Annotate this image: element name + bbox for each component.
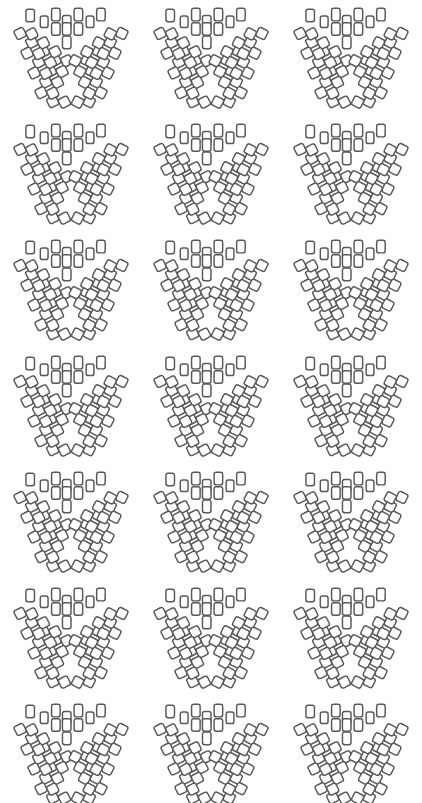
v-cluster-motif: [10, 582, 132, 692]
pattern-tile: [198, 559, 211, 572]
v-cluster-motif: [10, 466, 132, 576]
pattern-tile: [338, 211, 351, 224]
pattern-tile: [192, 124, 201, 137]
v-cluster-motif: [10, 118, 132, 228]
pattern-tile: [395, 491, 408, 504]
pattern-tile: [332, 139, 341, 152]
v-cluster-motif: [290, 118, 412, 228]
pattern-tile: [255, 143, 268, 156]
pattern-tile: [153, 27, 166, 40]
v-cluster-motif: [150, 350, 272, 460]
pattern-tile: [342, 152, 351, 165]
pattern-tile: [115, 607, 128, 620]
pattern-tile: [62, 487, 71, 500]
pattern-tile: [40, 364, 48, 376]
pattern-tile: [202, 487, 211, 500]
pattern-tile: [255, 491, 268, 504]
pattern-tile: [255, 375, 268, 388]
pattern-tile: [338, 791, 351, 803]
pattern-tile: [166, 241, 175, 254]
pattern-tile: [226, 480, 234, 492]
pattern-tile: [202, 603, 211, 616]
pattern-tile: [52, 240, 61, 253]
pattern-tile: [214, 719, 223, 732]
pattern-tile: [377, 240, 386, 253]
pattern-tile: [166, 473, 175, 486]
v-cluster-motif: [10, 2, 132, 112]
pattern-tile: [115, 491, 128, 504]
pattern-tile: [214, 371, 223, 384]
pattern-tile: [97, 472, 106, 485]
pattern-tile: [306, 589, 315, 602]
pattern-tile: [332, 371, 341, 384]
v-cluster-motif: [290, 2, 412, 112]
pattern-tile: [211, 675, 224, 688]
pattern-tile: [202, 36, 211, 49]
pattern-tile: [354, 255, 363, 268]
pattern-tile: [115, 27, 128, 40]
pattern-tile: [166, 589, 175, 602]
pattern-tile: [153, 375, 166, 388]
pattern-tile: [202, 371, 211, 384]
pattern-tile: [214, 472, 223, 485]
pattern-tile: [395, 607, 408, 620]
pattern-tile: [198, 327, 211, 340]
pattern-tile: [192, 255, 201, 268]
pattern-tile: [354, 603, 363, 616]
pattern-tile: [192, 356, 201, 369]
pattern-tile: [192, 8, 201, 21]
pattern-tile: [40, 16, 48, 28]
pattern-tile: [377, 124, 386, 137]
pattern-tile: [192, 472, 201, 485]
pattern-tile: [74, 371, 83, 384]
pattern-tile: [320, 248, 328, 260]
pattern-tile: [62, 152, 71, 165]
pattern-tile: [395, 723, 408, 736]
pattern-tile: [26, 589, 35, 602]
pattern-tile: [306, 357, 315, 370]
pattern-tile: [153, 143, 166, 156]
pattern-tile: [52, 139, 61, 152]
pattern-tile: [13, 491, 26, 504]
pattern-tile: [255, 723, 268, 736]
pattern-tile: [366, 596, 374, 608]
pattern-tile: [320, 596, 328, 608]
pattern-tile: [192, 23, 201, 36]
pattern-tile: [237, 472, 246, 485]
pattern-tile: [237, 240, 246, 253]
pattern-tile: [40, 132, 48, 144]
pattern-tile: [26, 357, 35, 370]
pattern-tile: [166, 9, 175, 22]
v-cluster-motif: [290, 234, 412, 344]
pattern-tile: [62, 616, 71, 629]
pattern-tile: [62, 36, 71, 49]
pattern-tile: [214, 124, 223, 137]
pattern-tile: [237, 704, 246, 717]
pattern-tile: [332, 603, 341, 616]
pattern-tile: [40, 596, 48, 608]
v-cluster-motif: [150, 466, 272, 576]
pattern-tile: [255, 607, 268, 620]
pattern-tile: [366, 248, 374, 260]
pattern-tile: [226, 132, 234, 144]
v-cluster-motif: [290, 466, 412, 576]
pattern-tile: [354, 139, 363, 152]
pattern-tile: [115, 723, 128, 736]
pattern-tile: [226, 248, 234, 260]
pattern-tile: [74, 472, 83, 485]
pattern-tile: [214, 588, 223, 601]
pattern-tile: [214, 240, 223, 253]
pattern-tile: [226, 364, 234, 376]
pattern-tile: [198, 95, 211, 108]
pattern-tile: [180, 364, 188, 376]
pattern-tile: [97, 124, 106, 137]
pattern-tile: [71, 791, 84, 803]
pattern-tile: [86, 364, 94, 376]
pattern-tile: [351, 791, 364, 803]
pattern-tile: [351, 559, 364, 572]
pattern-tile: [62, 719, 71, 732]
pattern-tile: [40, 480, 48, 492]
pattern-tile: [354, 8, 363, 21]
pattern-tile: [354, 472, 363, 485]
v-cluster-motif: [290, 698, 412, 803]
